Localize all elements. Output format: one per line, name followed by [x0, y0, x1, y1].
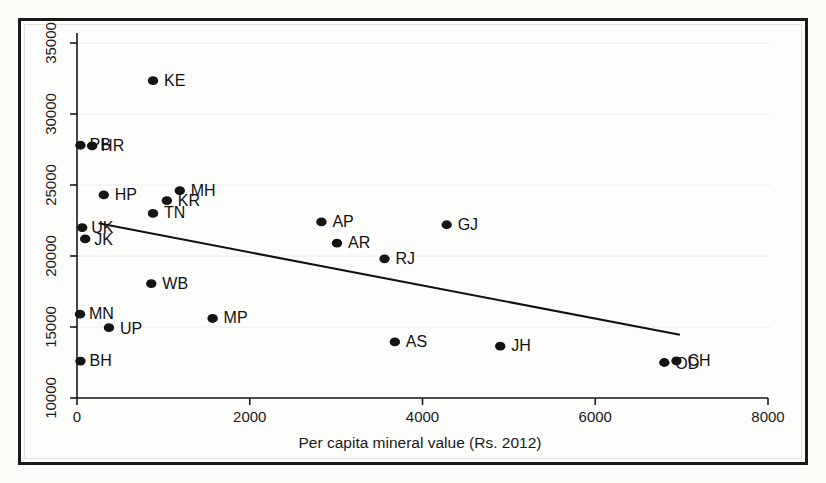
data-point-label: JH [511, 337, 531, 354]
data-point-label: HR [101, 137, 124, 154]
y-tick-label: 35000 [42, 22, 59, 64]
y-tick-label: 25000 [42, 164, 59, 206]
data-point-marker [148, 209, 158, 218]
data-point-marker [77, 223, 87, 232]
data-point-marker [148, 76, 158, 85]
data-point-label: TN [164, 204, 185, 221]
x-tick-label: 8000 [751, 408, 784, 425]
data-point-marker [495, 342, 505, 351]
data-point-marker [99, 191, 109, 200]
data-point-marker [671, 356, 681, 365]
data-point-label: HP [115, 186, 137, 203]
data-point-label: KE [164, 72, 185, 89]
data-point-label: GJ [458, 216, 478, 233]
data-point-marker [104, 323, 114, 332]
data-point-marker [146, 279, 156, 288]
data-point-marker [87, 142, 97, 151]
data-point-label: MN [89, 305, 114, 322]
x-tick-label: 0 [73, 408, 81, 425]
y-tick-label: 10000 [42, 377, 59, 419]
data-point-marker [75, 357, 85, 366]
data-point-marker [379, 254, 389, 263]
data-point-marker [75, 310, 85, 319]
data-point-marker [332, 239, 342, 248]
data-point-marker [207, 314, 217, 323]
data-point-label: MP [224, 309, 248, 326]
x-axis-ticks-group: 02000400060008000 [73, 398, 785, 425]
data-point-marker [316, 218, 326, 227]
data-point-label: AS [406, 333, 427, 350]
x-axis-title: Per capita mineral value (Rs. 2012) [299, 434, 542, 451]
scatter-plot: 100001500020000250003000035000 020004000… [0, 0, 826, 483]
data-point-label: WB [162, 275, 188, 292]
data-point-label: BH [89, 352, 111, 369]
y-tick-label: 30000 [42, 93, 59, 135]
x-tick-label: 2000 [233, 408, 266, 425]
y-tick-label: 15000 [42, 306, 59, 348]
data-point-label: JK [94, 231, 113, 248]
y-axis-ticks-group: 100001500020000250003000035000 [42, 22, 77, 419]
data-point-label: RJ [395, 250, 415, 267]
data-point-label: AP [332, 213, 353, 230]
data-point-marker [75, 141, 85, 150]
figure-page: 100001500020000250003000035000 020004000… [0, 0, 826, 483]
data-point-label: AR [348, 234, 370, 251]
data-point-marker [390, 338, 400, 347]
data-point-label: UP [120, 320, 142, 337]
data-point-marker [80, 235, 90, 244]
x-tick-label: 6000 [579, 408, 612, 425]
data-point-marker [441, 220, 451, 229]
x-tick-label: 4000 [406, 408, 439, 425]
data-point-label: CH [687, 352, 710, 369]
data-point-marker [659, 358, 669, 367]
y-tick-label: 20000 [42, 235, 59, 277]
